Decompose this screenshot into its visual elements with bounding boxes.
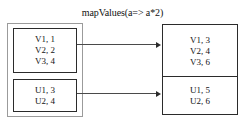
arrow-partition-1-head-icon: [156, 42, 161, 48]
arrow-partition-2-head-icon: [156, 91, 161, 97]
output-partition-1-box: V1, 3 V2, 4 V3, 6: [163, 25, 237, 77]
input-partition-2-box: U1, 3 U2, 4: [13, 79, 77, 112]
arrow-partition-1-line: [77, 44, 156, 45]
input-partition-1-entry-2: V2, 2: [35, 45, 55, 56]
input-partition-1-entry-3: V3, 4: [35, 56, 55, 67]
output-rdd-container: V1, 3 V2, 4 V3, 6 U1, 5 U2, 6: [162, 24, 238, 115]
output-partition-2-entry-2: U2, 6: [190, 96, 210, 107]
input-partition-2-entry-2: U2, 4: [35, 96, 55, 107]
output-partition-2-entry-1: U1, 5: [190, 85, 210, 96]
input-partition-2-entry-1: U1, 3: [35, 85, 55, 96]
input-partition-1-box: V1, 1 V2, 2 V3, 4: [13, 28, 77, 73]
arrow-partition-2-line: [77, 93, 156, 94]
output-partition-1-entry-3: V3, 6: [190, 57, 210, 68]
input-partition-1-entry-1: V1, 1: [35, 34, 55, 45]
output-partition-1-entry-1: V1, 3: [190, 35, 210, 46]
output-partition-2-box: U1, 5 U2, 6: [163, 77, 237, 114]
map-values-diagram: mapValues(a=> a*2) V1, 1 V2, 2 V3, 4 U1,…: [0, 0, 245, 127]
diagram-title: mapValues(a=> a*2): [0, 7, 245, 19]
output-partition-1-entry-2: V2, 4: [190, 46, 210, 57]
